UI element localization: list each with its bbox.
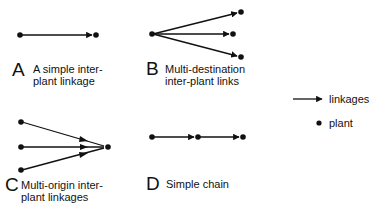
panel-b-caption-line1: Multi-destination — [165, 63, 245, 75]
plant-node — [238, 54, 244, 60]
plant-node — [240, 134, 246, 140]
panel-a-letter: A — [12, 60, 25, 79]
plant-node — [18, 167, 24, 173]
linkage-arrow — [22, 148, 104, 170]
panel-c-caption-line2: plant linkages — [21, 191, 88, 203]
panel-b-letter: B — [146, 59, 159, 78]
linkage-arrow — [22, 122, 104, 146]
panel-a-graph — [17, 32, 99, 38]
arrowhead — [79, 152, 88, 158]
plant-node — [105, 144, 111, 150]
arrowhead — [80, 144, 88, 150]
plant-node — [195, 134, 201, 140]
legend-linkages-label: linkages — [329, 93, 369, 105]
panel-b-graph — [149, 9, 244, 60]
panel-d-graph — [149, 134, 246, 140]
plant-node — [93, 32, 99, 38]
linkage-arrow — [153, 34, 237, 56]
linkage-arrow — [153, 13, 237, 34]
panel-b-caption-line2: inter-plant links — [165, 75, 239, 87]
panel-c-graph — [18, 119, 111, 173]
panel-d-letter: D — [146, 174, 160, 193]
plant-node — [17, 32, 23, 38]
panel-a-caption-line2: plant linkage — [33, 75, 95, 87]
plant-node — [149, 31, 155, 37]
plant-legend-dot — [316, 120, 321, 125]
plant-node — [230, 31, 236, 37]
plant-node — [149, 134, 155, 140]
legend-plant-label: plant — [329, 117, 353, 129]
plant-node — [18, 144, 24, 150]
plant-node — [18, 119, 24, 125]
panel-c-letter: C — [5, 175, 19, 194]
panel-d-caption-line1: Simple chain — [166, 178, 229, 190]
panel-c-caption-line1: Multi-origin inter- — [21, 179, 103, 191]
legend-symbols — [293, 99, 322, 126]
arrowhead — [79, 136, 88, 142]
panel-a-caption-line1: A simple inter- — [33, 63, 103, 75]
plant-node — [238, 9, 244, 15]
